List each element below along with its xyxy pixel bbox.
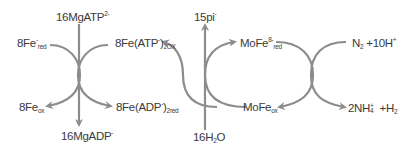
- label-sub: red: [38, 43, 47, 50]
- label-sup: 8-: [268, 36, 273, 43]
- label-sub: 4: [370, 109, 374, 114]
- label-sup: -: [111, 129, 113, 136]
- arrow-fe-atp-ox-to-fe-adp-red: [78, 45, 110, 106]
- label-sup: 2-: [104, 10, 109, 17]
- label-text: 16H: [193, 131, 213, 143]
- label-n2-h: N2 +10H+: [352, 38, 396, 50]
- label-text: 16MgADP: [61, 130, 111, 142]
- label-nh4-h2: 2NH+4 +H2: [348, 103, 397, 115]
- label-sub: ox: [271, 107, 277, 114]
- label-sup: +: [393, 36, 397, 43]
- arrow-n2-to-nh4: [311, 42, 346, 107]
- label-sub: ox: [38, 107, 44, 114]
- label-text: 8Fe: [17, 37, 36, 49]
- label-text: 2NH: [348, 102, 370, 114]
- label-text: N: [352, 37, 360, 49]
- label-sub: 2red: [167, 107, 179, 114]
- label-sub: 2: [394, 108, 397, 115]
- label-text: 16MgATP: [56, 11, 104, 23]
- label-mgadp: 16MgADP-: [61, 131, 113, 143]
- arrow-fe-adp-red-to-fe-atp-ox: [164, 42, 217, 107]
- label-text: MoFe: [243, 101, 271, 113]
- label-text: 8Fe: [19, 101, 38, 113]
- label-text: 8Fe(ADP: [116, 101, 161, 113]
- label-text: 8Fe(ATP: [115, 37, 158, 49]
- label-text: MoFe: [240, 37, 268, 49]
- label-text: O: [217, 131, 226, 143]
- label-sup: -: [215, 10, 217, 17]
- label-pi: 15pi-: [194, 12, 216, 24]
- label-fe-red: 8Fe-red: [17, 38, 46, 50]
- label-fe-adp-red: 8Fe(ADP-)2red: [116, 102, 178, 114]
- arrow-mofe-red-to-mofe-ox: [276, 42, 313, 107]
- label-sub: 2OX: [163, 43, 175, 50]
- label-mofe-red: MoFe8-red: [240, 38, 282, 50]
- label-text: +H: [377, 102, 394, 114]
- label-fe-ox: 8Feox: [19, 102, 44, 114]
- arrow-fe-red-to-fe-ox: [48, 45, 80, 106]
- arrow-mofe-ox-to-mofe-red: [205, 42, 246, 107]
- label-sub: red: [273, 43, 282, 50]
- label-h2o: 16H2O: [193, 132, 225, 144]
- label-fe-atp-ox: 8Fe(ATP-)2OX: [115, 38, 176, 50]
- label-text: 15pi: [194, 11, 215, 23]
- label-mofe-ox: MoFeox: [243, 102, 277, 114]
- label-sup: -: [36, 36, 38, 43]
- label-text: +10H: [363, 37, 393, 49]
- label-mgatp: 16MgATP2-: [56, 12, 109, 24]
